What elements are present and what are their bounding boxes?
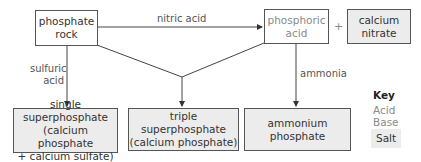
node-single-superphosphate: single superphosphate (calcium phosphate… [13,108,118,153]
edge-label-nitric-acid: nitric acid [157,13,206,25]
node-phosphate-rock: phosphate rock [35,10,98,46]
edge-label-ammonia: ammonia [300,68,347,80]
key-base: Base [373,116,399,129]
plus-sign: + [334,20,343,33]
edge-label-sulfuric-acid: sulfuric acid [30,63,64,87]
node-phosphoric-acid: phosphoric acid [264,9,329,44]
node-calcium-nitrate: calcium nitrate [347,9,411,44]
node-triple-superphosphate: triple superphosphate (calcium phosphate… [128,108,239,151]
node-ammonium-phosphate: ammonium phosphate [244,108,351,151]
key-salt: Salt [371,129,401,148]
key-title: Key [373,89,395,101]
